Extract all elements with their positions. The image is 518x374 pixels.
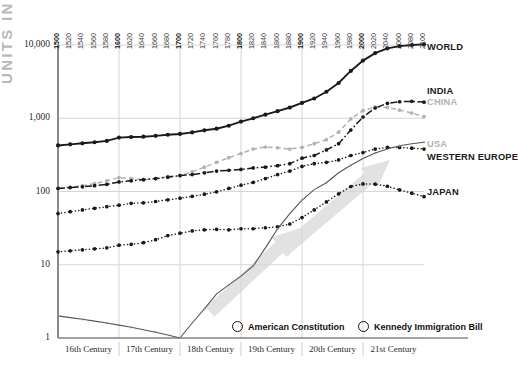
y-axis-tick-label: 100 bbox=[4, 186, 50, 196]
x-axis-year-label: 1840 bbox=[259, 33, 268, 49]
x-axis-year-label: 1760 bbox=[211, 33, 220, 49]
x-axis-year-label: 1540 bbox=[76, 33, 85, 49]
x-axis-year-label: 1960 bbox=[333, 33, 342, 49]
x-axis-year-label: 1780 bbox=[223, 33, 232, 49]
x-axis-year-label: 1940 bbox=[320, 33, 329, 49]
x-axis-year-label: 2000 bbox=[357, 33, 366, 49]
x-axis-year-label: 1520 bbox=[64, 33, 73, 49]
x-axis-year-label: 1560 bbox=[89, 33, 98, 49]
series-label-japan: JAPAN bbox=[427, 187, 459, 197]
x-axis-year-label: 1880 bbox=[284, 33, 293, 49]
series-label-world: WORLD bbox=[427, 42, 463, 52]
y-axis-tick-label: 10 bbox=[4, 259, 50, 269]
x-axis-year-label: 1640 bbox=[137, 33, 146, 49]
x-axis-year-label: 1860 bbox=[272, 33, 281, 49]
legend-item-kennedy-immigration-bill[interactable]: Kennedy Immigration Bill bbox=[358, 321, 483, 332]
x-axis-year-label: 2020 bbox=[369, 33, 378, 49]
x-axis-year-label: 1740 bbox=[198, 33, 207, 49]
x-axis-year-label: 2060 bbox=[394, 33, 403, 49]
legend-item-american-constitution[interactable]: American Constitution bbox=[232, 321, 345, 332]
century-label: 17th Century bbox=[119, 344, 180, 354]
y-axis-tick-label: 1,000 bbox=[4, 112, 50, 122]
x-axis-year-label: 1980 bbox=[345, 33, 354, 49]
x-axis-year-label: 2080 bbox=[406, 33, 415, 49]
x-axis-year-label: 1820 bbox=[247, 33, 256, 49]
x-axis-year-label: 2040 bbox=[381, 33, 390, 49]
x-axis-year-label: 1580 bbox=[101, 33, 110, 49]
x-axis-year-label: 2100 bbox=[418, 33, 427, 49]
x-axis-year-label: 1660 bbox=[150, 33, 159, 49]
century-label: 21st Century bbox=[363, 344, 424, 354]
century-label: 18th Century bbox=[180, 344, 241, 354]
x-axis-year-label: 1620 bbox=[125, 33, 134, 49]
century-label: 19th Century bbox=[241, 344, 302, 354]
open-circle-icon bbox=[232, 321, 243, 332]
open-circle-icon bbox=[358, 321, 369, 332]
series-label-western-europe: WESTERN EUROPE bbox=[427, 152, 518, 162]
x-axis-year-label: 1600 bbox=[113, 33, 122, 49]
x-axis-year-label: 1800 bbox=[235, 33, 244, 49]
x-axis-year-label: 1700 bbox=[174, 33, 183, 49]
x-axis-year-label: 1680 bbox=[162, 33, 171, 49]
legend-label: American Constitution bbox=[248, 322, 345, 332]
century-label: 20th Century bbox=[302, 344, 363, 354]
x-axis-year-label: 1720 bbox=[186, 33, 195, 49]
x-axis-year-label: 1500 bbox=[52, 33, 61, 49]
series-label-china: CHINA bbox=[427, 97, 457, 107]
y-axis-tick-label: 1 bbox=[4, 332, 50, 342]
legend-label: Kennedy Immigration Bill bbox=[374, 322, 483, 332]
series-label-india: INDIA bbox=[427, 86, 453, 96]
century-label: 16th Century bbox=[58, 344, 119, 354]
series-label-usa: USA bbox=[427, 139, 447, 149]
y-axis-tick-label: 10,000 bbox=[4, 39, 50, 49]
x-axis-year-label: 1900 bbox=[296, 33, 305, 49]
x-axis-year-label: 1920 bbox=[308, 33, 317, 49]
